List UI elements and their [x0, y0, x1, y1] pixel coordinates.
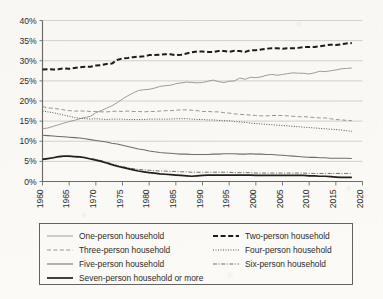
legend-label: One-person household [79, 231, 165, 241]
x-axis-ticks [43, 182, 363, 186]
y-axis-tick-label: 40% [20, 16, 37, 26]
x-axis-tick-labels: 1960196519701975198019851990199520002005… [35, 189, 365, 208]
y-axis-tick-label: 5% [24, 156, 37, 166]
y-axis-tick-labels: 0%5%10%15%20%25%30%35%40% [20, 16, 37, 187]
gridlines [43, 21, 363, 162]
x-axis-tick-label: 2005 [275, 189, 285, 208]
chart-page: 0%5%10%15%20%25%30%35%40% 19601965197019… [0, 0, 383, 299]
x-axis-tick-label: 1985 [168, 189, 178, 208]
y-axis-tick-label: 15% [20, 116, 37, 126]
legend-label: Three-person household [79, 245, 171, 255]
legend-label: Two-person household [245, 231, 330, 241]
x-axis-tick-label: 1960 [35, 189, 45, 208]
legend-label: Five-person household [79, 259, 165, 269]
series-line-two-person-household [43, 43, 352, 70]
y-axis-tick-label: 25% [20, 76, 37, 86]
x-axis-tick-label: 2000 [248, 189, 258, 208]
x-axis-tick-label: 1980 [141, 189, 151, 208]
legend-label: Four-person household [245, 245, 332, 255]
data-series [43, 43, 352, 177]
y-axis-tick-label: 0% [24, 177, 37, 187]
series-line-five-person-household [43, 135, 352, 158]
x-axis-tick-label: 1965 [61, 189, 71, 208]
x-axis-tick-label: 2010 [301, 189, 311, 208]
legend: One-person householdThree-person househo… [47, 231, 332, 283]
x-axis-tick-label: 1970 [88, 189, 98, 208]
x-axis-tick-label: 1995 [221, 189, 231, 208]
household-size-line-chart: 0%5%10%15%20%25%30%35%40% 19601965197019… [0, 0, 383, 299]
x-axis-tick-label: 2015 [328, 189, 338, 208]
legend-label: Seven-person household or more [79, 273, 204, 283]
series-line-three-person-household [43, 107, 352, 121]
x-axis-tick-label: 1975 [115, 189, 125, 208]
series-line-seven-person-household-or-more [43, 156, 352, 177]
y-axis-tick-label: 10% [20, 136, 37, 146]
y-axis-tick-label: 30% [20, 56, 37, 66]
y-axis-tick-label: 35% [20, 36, 37, 46]
x-axis-tick-label: 2020 [355, 189, 365, 208]
y-axis-tick-label: 20% [20, 96, 37, 106]
x-axis-tick-label: 1990 [195, 189, 205, 208]
legend-label: Six-person household [245, 259, 326, 269]
